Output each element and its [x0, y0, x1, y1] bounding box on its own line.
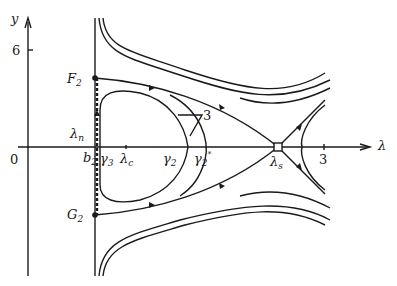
origin-label: 0	[10, 153, 18, 166]
arrow-icon	[219, 183, 225, 189]
arrow-icon	[219, 104, 225, 110]
label-gamma2-star: γ2*	[194, 152, 212, 165]
label-F2: F2	[67, 72, 82, 85]
label-lambda-n: λn	[70, 127, 84, 140]
x-tick-label: 3	[319, 153, 327, 166]
label-lambda-c: λc	[120, 152, 133, 165]
label-gamma3: γ3	[100, 152, 114, 165]
y-axis-label: y	[11, 12, 18, 25]
arrow-icon	[149, 85, 155, 91]
lower-right-curve	[240, 192, 330, 208]
annotation-label: 3	[203, 109, 211, 122]
upper-right-curve	[240, 88, 330, 103]
upper-outer-curve-2	[103, 18, 325, 89]
label-G2: G2	[67, 208, 83, 221]
point-F2	[92, 75, 98, 81]
label-b2: b2	[83, 151, 97, 164]
y-tick-label: 6	[12, 44, 20, 57]
x-axis-label: λ	[378, 139, 386, 152]
label-lambda-s: λs	[270, 155, 283, 168]
point-G2	[92, 212, 98, 218]
phase-portrait-diagram: y 6 0 λ 3 F2 G2 λn b2 γ3 λc γ2 γ2* λs 3	[0, 0, 397, 286]
saddle-point-lambda-s	[274, 143, 282, 151]
lower-outer-curve-2	[103, 212, 325, 276]
diagram-lines	[0, 0, 397, 286]
label-gamma2: γ2	[163, 152, 177, 165]
